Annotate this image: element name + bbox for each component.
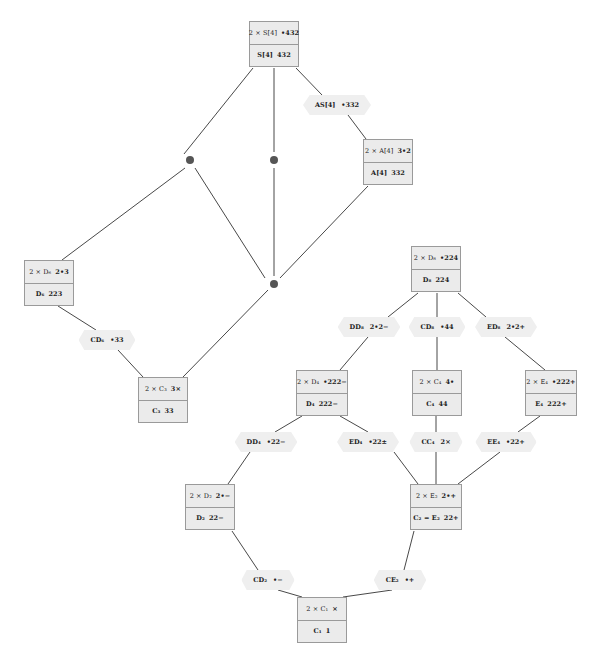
edge-d8-dd8 — [388, 293, 418, 317]
edge-label-ee4: EE₄•22+ — [475, 432, 536, 452]
node-bottom-label: C₂ = E₂ — [413, 514, 440, 522]
edge-ee4-e2 — [458, 452, 500, 484]
edge-label-ed8: ED₈2•2+ — [475, 317, 537, 337]
edge-e4-ee4 — [518, 416, 540, 432]
edge-d8-ed8 — [458, 293, 486, 317]
edge-label-ed4: ED₄•22± — [337, 432, 399, 452]
node-top-symbol: •222+ — [552, 378, 576, 386]
node-top-symbol: 2•− — [216, 492, 230, 500]
node-bottom-symbol: 224 — [435, 276, 449, 284]
node-bottom-symbol: 332 — [391, 169, 405, 177]
node-bottom-label: C₃ — [152, 407, 160, 415]
node-top-symbol: 2•3 — [55, 268, 69, 276]
node-d6: 2 × D₆2•3 D₆223 — [24, 260, 74, 306]
node-d4: 2 × D₄•222− D₄222− — [296, 370, 348, 416]
edge-ed4-e2 — [394, 452, 418, 484]
edge-label-name: CD₂ — [253, 576, 267, 584]
node-bottom-label: A[4] — [371, 169, 387, 177]
edge-label-symbol: •22+ — [506, 438, 525, 446]
edge-dot1-dot3 — [195, 168, 265, 278]
node-top-symbol: •222− — [323, 378, 347, 386]
node-top-symbol: •224 — [440, 254, 458, 262]
node-bottom-label: D₈ — [423, 276, 432, 284]
node-a4: 2 × A[4]3•2 A[4]332 — [363, 139, 413, 185]
node-bottom-symbol: 223 — [48, 290, 62, 298]
edge-label-symbol: •− — [273, 576, 283, 584]
node-c1: 2 × C₁× C₁1 — [297, 597, 347, 643]
node-top-label: 2 × C₄ — [420, 378, 442, 386]
edge-s4-dot1 — [184, 68, 253, 154]
node-d8: 2 × D₈•224 D₈224 — [411, 246, 461, 292]
node-top-symbol: × — [332, 605, 338, 613]
node-bottom-label: C₁ — [314, 627, 322, 635]
edge-label-name: EE₄ — [487, 438, 500, 446]
node-bottom-label: E₄ — [535, 400, 543, 408]
edge-s4-as4 — [296, 68, 322, 95]
edge-d4-dd4 — [275, 416, 302, 432]
edge-label-name: CD₆ — [91, 336, 105, 344]
junction-dot-lower — [270, 280, 278, 288]
edge-label-symbol: 2•2+ — [506, 323, 525, 331]
node-bottom-symbol: 22− — [209, 514, 224, 522]
edge-dd4-d2 — [228, 452, 250, 484]
edge-ce2-c1 — [343, 590, 392, 597]
node-s4: 2 × S[4]•432 S[4]432 — [249, 21, 299, 67]
edge-label-cc4: CC₄2× — [409, 432, 462, 452]
node-top-label: 2 × A[4] — [365, 147, 393, 155]
edge-label-name: DD₄ — [247, 438, 261, 446]
edge-label-symbol: •33 — [110, 336, 123, 344]
node-bottom-label: S[4] — [257, 51, 273, 59]
edge-label-ce2: CE₂•+ — [374, 570, 427, 590]
node-bottom-label: D₆ — [36, 290, 45, 298]
edge-cd6-c3 — [118, 350, 143, 377]
node-top-symbol: 3× — [171, 385, 181, 393]
edge-d2-cd2 — [232, 531, 258, 570]
node-top-label: 2 × C₁ — [306, 605, 328, 613]
node-bottom-symbol: 222+ — [547, 400, 566, 408]
node-top-label: 2 × D₄ — [297, 378, 319, 386]
edge-as4-a4 — [348, 115, 366, 139]
node-bottom-label: D₂ — [196, 514, 205, 522]
node-d2: 2 × D₂2•− D₂22− — [185, 484, 235, 530]
node-bottom-symbol: 222− — [319, 400, 338, 408]
node-bottom-symbol: 22+ — [444, 514, 459, 522]
node-top-symbol: 2•+ — [442, 492, 456, 500]
node-top-label: 2 × D₈ — [414, 254, 436, 262]
node-top-label: 2 × S[4] — [249, 29, 277, 37]
edge-label-as4: AS[4]•332 — [303, 95, 371, 115]
edge-label-symbol: •44 — [440, 323, 453, 331]
edge-d6-cd6 — [58, 306, 96, 330]
edge-d4-ed4 — [340, 416, 368, 432]
edge-label-name: ED₄ — [349, 438, 362, 446]
edge-label-name: CD₈ — [421, 323, 435, 331]
edge-label-cd2: CD₂•− — [241, 570, 294, 590]
edge-dot1-d6 — [62, 168, 185, 260]
edge-dot3-c3 — [183, 290, 268, 377]
edge-label-name: CC₄ — [421, 438, 434, 446]
node-bottom-symbol: 44 — [438, 400, 447, 408]
edge-label-symbol: •22− — [267, 438, 286, 446]
edge-cd2-c1 — [278, 590, 302, 597]
node-top-label: 2 × E₄ — [526, 378, 548, 386]
edge-e2-ce2 — [404, 531, 414, 570]
edge-label-symbol: •+ — [405, 576, 415, 584]
edge-label-symbol: 2× — [441, 438, 451, 446]
node-bottom-symbol: 33 — [164, 407, 173, 415]
edge-label-cd6: CD₆•33 — [79, 330, 136, 350]
node-c4: 2 × C₄4• C₄44 — [412, 370, 462, 416]
edge-label-symbol: •22± — [368, 438, 387, 446]
edge-label-cd8: CD₈•44 — [409, 317, 466, 337]
node-bottom-label: C₄ — [426, 400, 434, 408]
node-e2: 2 × E₂2•+ C₂ = E₂22+ — [410, 484, 462, 530]
node-e4: 2 × E₄•222+ E₄222+ — [525, 370, 577, 416]
edge-label-name: DD₈ — [350, 323, 364, 331]
edge-a4-dot3 — [280, 186, 368, 278]
edge-label-name: CE₂ — [386, 576, 399, 584]
edge-label-dd4: DD₄•22− — [235, 432, 298, 452]
node-top-symbol: •432 — [281, 29, 299, 37]
edge-label-symbol: •332 — [341, 101, 359, 109]
edge-ed8-e4 — [505, 337, 545, 370]
edge-label-symbol: 2•2− — [370, 323, 389, 331]
edge-label-dd8: DD₈2•2− — [338, 317, 401, 337]
node-top-label: 2 × C₃ — [145, 385, 167, 393]
